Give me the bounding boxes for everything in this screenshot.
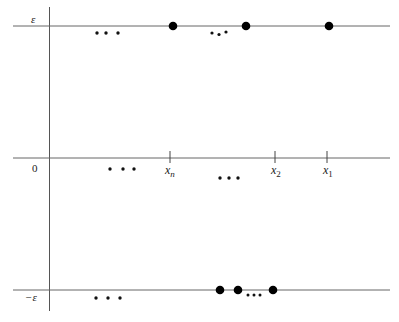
point-bottom-3	[269, 286, 278, 295]
ellipsis-bottom-left	[94, 296, 121, 299]
label-x-n-sub: n	[170, 169, 175, 179]
ellipsis-mid-left	[108, 167, 135, 170]
point-top-3	[325, 22, 334, 31]
point-bottom-1	[216, 286, 225, 295]
label-x-2-sub: 2	[276, 169, 281, 179]
point-bottom-2	[234, 286, 243, 295]
point-top-2	[242, 22, 251, 31]
label-x-n: xn	[164, 163, 175, 179]
zero-label: 0	[32, 162, 38, 174]
label-x-1-sub: 1	[328, 169, 333, 179]
point-top-1	[169, 22, 178, 31]
epsilon-label: ε	[31, 13, 36, 25]
ellipsis-top-middle	[210, 30, 227, 36]
label-x-2: x2	[270, 163, 281, 179]
ellipsis-bottom-middle	[247, 294, 262, 297]
ellipsis-top-left	[95, 31, 119, 34]
ellipsis-mid-right	[218, 176, 239, 179]
neg-epsilon-label: −ε	[25, 291, 37, 303]
sequence-diagram: ε 0 −ε xn x2 x1	[0, 0, 399, 322]
label-x-1: x1	[322, 163, 333, 179]
